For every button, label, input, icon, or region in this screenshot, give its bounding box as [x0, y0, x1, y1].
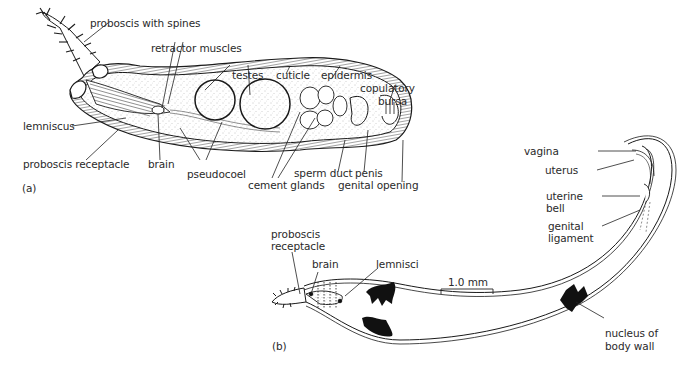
label-retractor-muscles: retractor muscles [151, 42, 242, 54]
label-copulatory: copulatory [360, 82, 415, 94]
label-cement-glands: cement glands [248, 179, 325, 191]
label-bursa: bursa [378, 95, 407, 107]
nucleus-1 [366, 282, 395, 306]
label-uterine: uterine [546, 190, 583, 202]
label-brain-a: brain [148, 158, 175, 170]
label-cuticle: cuticle [276, 69, 310, 81]
label-vagina: vagina [524, 145, 559, 157]
label-genital: genital [548, 220, 583, 232]
testis-2 [240, 79, 290, 129]
label-brain-b: brain [312, 258, 339, 270]
label-scale-bar: 1.0 mm [448, 276, 488, 288]
label-ligament: ligament [548, 232, 594, 244]
label-nucleus-of: nucleus of [605, 327, 658, 339]
panel-b-tag: (b) [272, 340, 287, 352]
label-lemniscus: lemniscus [23, 120, 75, 132]
label-pseudocoel: pseudocoel [187, 168, 246, 180]
label-epidermis: epidermis [321, 69, 372, 81]
label-penis: penis [355, 167, 383, 179]
label-proboscis-with-spines: proboscis with spines [90, 17, 200, 29]
label-bell: bell [546, 202, 565, 214]
label-testes: testes [232, 69, 264, 81]
panel-a-tag: (a) [22, 182, 36, 194]
label-uterus: uterus [545, 164, 578, 176]
label-proboscis-b: proboscis [271, 228, 320, 240]
label-genital-opening: genital opening [338, 179, 418, 191]
testis-1 [195, 80, 235, 120]
scale-bar [441, 289, 493, 294]
label-sperm-duct: sperm duct [294, 167, 353, 179]
label-proboscis-receptacle: proboscis receptacle [23, 158, 129, 170]
label-receptacle-b: receptacle [271, 240, 325, 252]
label-lemnisci: lemnisci [376, 258, 419, 270]
label-body-wall: body wall [605, 340, 654, 352]
